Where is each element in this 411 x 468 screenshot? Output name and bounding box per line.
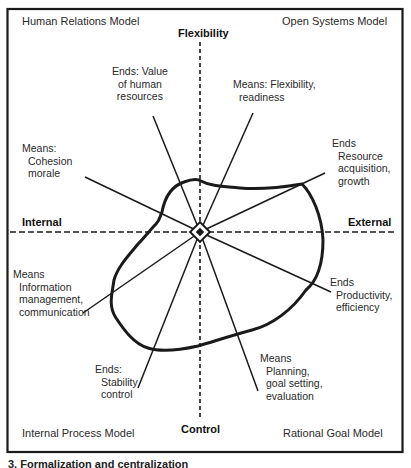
label-line: Means <box>13 268 90 281</box>
label-value-human-resources: Ends: Value of human resources <box>112 65 168 103</box>
label-line: readiness <box>233 91 316 104</box>
label-line: Cohesion <box>22 155 72 168</box>
label-resource-acquisition: Ends Resource acquisition, growth <box>332 137 391 187</box>
label-line: morale <box>22 167 72 180</box>
label-line: efficiency <box>330 301 392 314</box>
axis-label-internal: Internal <box>22 216 62 229</box>
label-information-management: Means Information management, communicat… <box>13 268 90 318</box>
label-line: Stability <box>95 376 138 389</box>
label-line: Ends: Value <box>112 65 168 78</box>
quadrant-title-human-relations: Human Relations Model <box>22 15 139 28</box>
quadrant-title-internal-process: Internal Process Model <box>22 427 135 440</box>
quadrant-title-rational-goal: Rational Goal Model <box>283 427 383 440</box>
spokes <box>83 113 331 391</box>
label-line: growth <box>332 175 391 188</box>
label-line: control <box>95 388 138 401</box>
quadrant-title-open-systems: Open Systems Model <box>282 15 387 28</box>
label-cohesion-morale: Means: Cohesion morale <box>22 142 72 180</box>
spoke-stability-control <box>138 232 200 388</box>
axis-label-control: Control <box>181 423 220 436</box>
label-line: communication <box>13 306 90 319</box>
label-line: management, <box>13 293 90 306</box>
label-stability-control: Ends: Stability control <box>95 363 138 401</box>
spoke-information-management <box>83 232 200 313</box>
axis-label-external: External <box>348 216 391 229</box>
label-line: Ends <box>332 137 391 150</box>
spoke-flexibility-readiness <box>200 113 253 232</box>
label-line: goal setting, <box>260 377 323 390</box>
spoke-planning <box>200 232 258 391</box>
spoke-cohesion-morale <box>85 177 200 232</box>
spoke-resource-acquisition <box>200 173 325 232</box>
label-line: Ends: <box>95 363 138 376</box>
label-line: Planning, <box>260 365 323 378</box>
label-line: Means: Flexibility, <box>233 78 316 91</box>
label-productivity: Ends Productivity, efficiency <box>330 276 392 314</box>
label-line: Information <box>13 281 90 294</box>
figure-caption: 3. Formalization and centralization <box>8 458 188 468</box>
label-line: Means <box>260 352 323 365</box>
label-line: Productivity, <box>330 289 392 302</box>
label-line: evaluation <box>260 390 323 403</box>
axis-label-flexibility: Flexibility <box>178 27 229 40</box>
label-line: Means: <box>22 142 72 155</box>
label-planning: Means Planning, goal setting, evaluation <box>260 352 323 402</box>
label-flexibility-readiness: Means: Flexibility, readiness <box>233 78 316 103</box>
label-line: Resource <box>332 150 391 163</box>
center-diamond-icon <box>190 222 210 242</box>
label-line: of human <box>112 78 168 91</box>
label-line: Ends <box>330 276 392 289</box>
competing-values-diagram <box>0 0 411 468</box>
label-line: resources <box>112 90 168 103</box>
label-line: acquisition, <box>332 162 391 175</box>
